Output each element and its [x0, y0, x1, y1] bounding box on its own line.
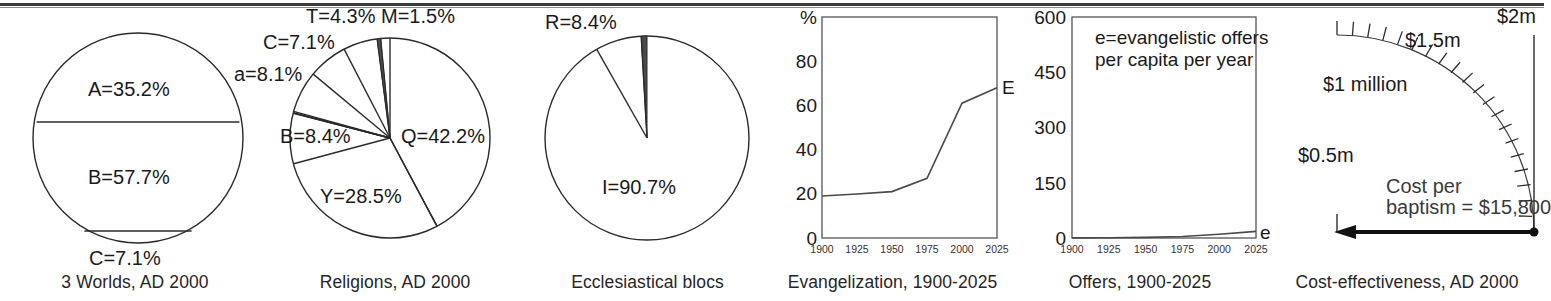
svg-text:20: 20 [796, 183, 817, 204]
caption-cost-effectiveness: Cost-effectiveness, AD 2000 [1270, 272, 1544, 293]
svg-text:2025: 2025 [985, 243, 1009, 255]
panel-religions: Q=42.2% Y=28.5% B=8.4% a=8.1% C=7.1% T=4… [270, 0, 520, 301]
caption-evangelization: Evangelization, 1900-2025 [775, 272, 1010, 293]
svg-text:1925: 1925 [1097, 243, 1121, 255]
svg-text:1975: 1975 [1171, 243, 1195, 255]
svg-text:1950: 1950 [880, 243, 904, 255]
ecclesiastical-blocs-pie [520, 0, 775, 270]
label-cost-one-million: $1 million [1323, 74, 1407, 94]
evangelization-line-chart: % 80 60 40 20 0 1900 1925 1950 1975 2000… [775, 0, 1010, 270]
caption-offers: Offers, 1900-2025 [1010, 272, 1270, 293]
caption-three-worlds: 3 Worlds, AD 2000 [0, 272, 270, 293]
label-religion-t: T=4.3% [306, 6, 375, 26]
svg-text:1925: 1925 [845, 243, 869, 255]
pointer-pivot-dot [1530, 228, 1539, 237]
cost-note-line2: baptism = $15,800 [1386, 197, 1551, 217]
offers-note-line1: e=evangelistic offers [1095, 28, 1268, 47]
panel-evangelization: % 80 60 40 20 0 1900 1925 1950 1975 2000… [775, 0, 1010, 301]
svg-text:2000: 2000 [1208, 243, 1232, 255]
svg-text:150: 150 [1034, 173, 1066, 194]
label-bloc-i: I=90.7% [602, 177, 676, 197]
caption-ecclesiastical-blocs: Ecclesiastical blocs [520, 272, 775, 293]
label-religion-a: a=8.1% [234, 64, 302, 84]
panel-offers: 600 450 300 150 0 1900 1925 1950 1975 20… [1010, 0, 1270, 301]
svg-text:1950: 1950 [1134, 243, 1158, 255]
svg-text:40: 40 [796, 139, 817, 160]
svg-text:2000: 2000 [950, 243, 974, 255]
svg-text:60: 60 [796, 95, 817, 116]
label-cost-one-five-million: $1.5m [1405, 30, 1461, 50]
svg-text:1900: 1900 [810, 243, 834, 255]
label-world-b: B=57.7% [88, 167, 170, 187]
panel-three-worlds: A=35.2% B=57.7% C=7.1% 3 Worlds, AD 2000 [0, 0, 270, 301]
offers-series-label: e [1260, 222, 1271, 243]
svg-text:300: 300 [1034, 117, 1066, 138]
label-religion-m: M=1.5% [381, 6, 455, 26]
label-world-a: A=35.2% [88, 79, 170, 99]
cost-note-line1: Cost per [1386, 176, 1462, 196]
label-cost-two-million: $2m [1497, 6, 1536, 26]
label-religion-c: C=7.1% [263, 32, 335, 52]
label-religion-y: Y=28.5% [320, 186, 402, 206]
panel-ecclesiastical-blocs: I=90.7% R=8.4% Ecclesiastical blocs [520, 0, 775, 301]
label-cost-half-million: $0.5m [1298, 145, 1354, 165]
evangelization-yunit: % [800, 7, 817, 28]
caption-religions: Religions, AD 2000 [270, 272, 520, 293]
label-religion-b: B=8.4% [280, 126, 351, 146]
label-bloc-r: R=8.4% [545, 12, 617, 32]
svg-text:600: 600 [1034, 7, 1066, 28]
label-world-c: C=7.1% [89, 248, 161, 268]
svg-text:450: 450 [1034, 62, 1066, 83]
svg-text:2025: 2025 [1244, 243, 1268, 255]
svg-text:80: 80 [796, 51, 817, 72]
svg-text:1975: 1975 [915, 243, 939, 255]
label-religion-q: Q=42.2% [401, 126, 485, 146]
panel-cost-effectiveness: $2m $1.5m $1 million $0.5m Cost per bapt… [1270, 0, 1544, 301]
svg-text:1900: 1900 [1060, 243, 1084, 255]
three-worlds-diagram [0, 0, 270, 270]
offers-note-line2: per capita per year [1095, 50, 1253, 69]
